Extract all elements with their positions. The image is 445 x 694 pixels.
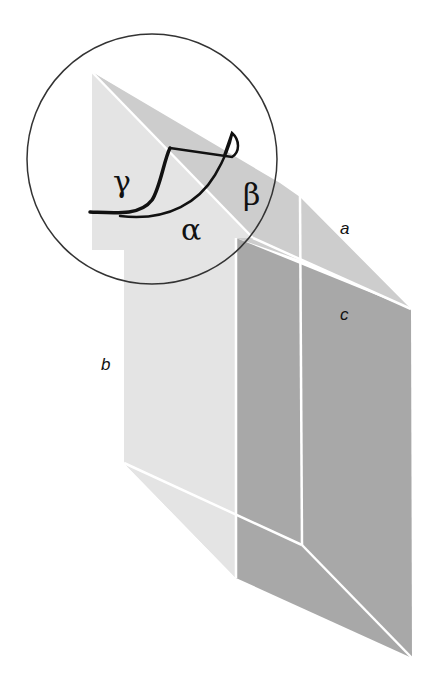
beta-label: β — [243, 177, 260, 212]
prism-diagram: γ α β a b c — [0, 0, 445, 694]
edge-label-c: c — [340, 305, 349, 324]
alpha-label: α — [181, 212, 201, 247]
gamma-label: γ — [113, 164, 131, 199]
edge-label-b: b — [101, 355, 110, 374]
edge-label-a: a — [340, 219, 349, 238]
front-face — [236, 238, 412, 658]
